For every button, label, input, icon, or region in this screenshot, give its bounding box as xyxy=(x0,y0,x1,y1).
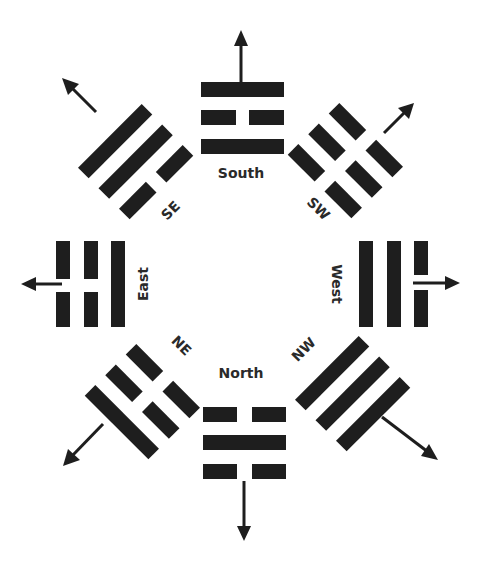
trigram-west: West xyxy=(329,241,460,327)
solid-line xyxy=(111,241,125,327)
trigram-northwest xyxy=(295,336,410,451)
broken-line-right xyxy=(252,407,286,422)
solid-line xyxy=(201,82,284,97)
solid-line xyxy=(85,385,159,459)
broken-line-left xyxy=(119,182,156,219)
arrow-right-head-icon xyxy=(445,276,460,290)
arrow-down-left-icon xyxy=(63,424,103,466)
arrow-up-right-icon xyxy=(384,103,414,133)
broken-line-bottom xyxy=(56,292,70,327)
broken-line-top xyxy=(414,241,428,275)
label-west: West xyxy=(329,264,345,304)
broken-line-bottom xyxy=(414,290,428,327)
broken-line-right xyxy=(249,110,284,125)
broken-line-left xyxy=(201,110,236,125)
trigram-northeast xyxy=(85,344,200,459)
solid-line xyxy=(201,139,284,154)
arrow-down-right-icon xyxy=(382,417,438,460)
broken-line-right xyxy=(163,381,200,418)
trigram-southeast xyxy=(78,104,193,219)
broken-line-left xyxy=(126,344,163,381)
solid-line xyxy=(359,241,373,327)
bagua-diagram: South North East West xyxy=(0,0,481,573)
solid-line xyxy=(316,357,390,431)
trigram-east: East xyxy=(21,241,151,327)
solid-line xyxy=(99,125,173,199)
trigram-south: South xyxy=(201,30,284,181)
arrow-up-left-icon xyxy=(62,78,96,112)
broken-line-right xyxy=(252,464,286,479)
label-northwest: NW xyxy=(288,334,319,365)
solid-line xyxy=(203,435,286,450)
broken-line-left xyxy=(288,144,325,181)
arrow-up-head-icon xyxy=(234,30,248,46)
solid-line xyxy=(78,104,152,178)
solid-line xyxy=(336,377,410,451)
broken-line-top xyxy=(56,241,70,279)
label-south: South xyxy=(218,165,264,181)
broken-line-left xyxy=(203,464,237,479)
label-southwest: SW xyxy=(304,194,333,223)
broken-line-left xyxy=(203,407,237,422)
broken-line-left xyxy=(329,103,366,140)
broken-line-right xyxy=(156,145,193,182)
arrow-left-head-icon xyxy=(21,277,36,291)
broken-line-top xyxy=(84,241,98,279)
label-east: East xyxy=(135,267,151,301)
trigram-southwest xyxy=(288,103,403,218)
label-north: North xyxy=(219,365,264,381)
broken-line-bottom xyxy=(84,292,98,327)
arrow-down-head-icon xyxy=(237,526,251,541)
broken-line-right xyxy=(366,140,403,177)
label-northeast: NE xyxy=(168,332,194,358)
trigram-north: North xyxy=(203,365,286,541)
broken-line-left xyxy=(105,365,142,402)
broken-line-right xyxy=(142,401,179,438)
broken-line-right xyxy=(345,160,382,197)
solid-line xyxy=(387,241,401,327)
broken-line-left xyxy=(308,124,345,161)
label-southeast: SE xyxy=(158,198,183,223)
